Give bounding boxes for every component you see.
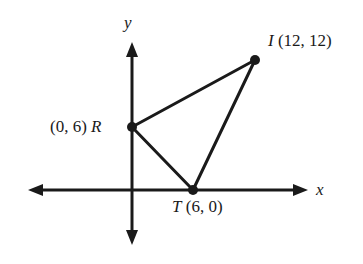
y-axis-down-arrowhead — [126, 230, 138, 245]
vertex-label-r: (0, 6) R — [50, 118, 101, 135]
vertex-label-t: T (6, 0) — [172, 198, 223, 215]
x-axis — [28, 184, 308, 196]
vertex-point-t — [188, 185, 198, 195]
vertex-coords-i: (12, 12) — [278, 31, 332, 50]
y-axis — [126, 42, 138, 245]
triangle-rit — [132, 60, 255, 190]
x-axis-right-arrowhead — [293, 184, 308, 196]
y-axis-up-arrowhead — [126, 42, 138, 57]
vertex-point-i — [250, 55, 260, 65]
x-axis-label: x — [316, 181, 324, 198]
vertex-label-i: I (12, 12) — [268, 32, 332, 49]
vertex-point-r — [127, 122, 137, 132]
triangle-outline — [132, 60, 255, 190]
vertex-coords-r: (0, 6) — [50, 117, 87, 136]
x-axis-left-arrowhead — [28, 184, 43, 196]
vertex-coords-t: (6, 0) — [186, 197, 223, 216]
y-axis-label: y — [124, 14, 132, 31]
vertex-letter-r: R — [91, 117, 101, 136]
